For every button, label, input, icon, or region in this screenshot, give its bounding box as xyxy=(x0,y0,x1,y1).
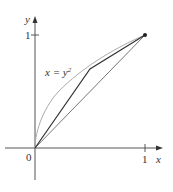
chord-line xyxy=(35,35,145,148)
x-axis-label: x xyxy=(155,153,161,165)
y-axis-label: y xyxy=(24,13,30,25)
origin-label: 0 xyxy=(26,151,32,163)
x-axis-arrow-icon xyxy=(156,146,163,151)
endpoint-dot xyxy=(143,33,147,37)
curve-label: x = y2 xyxy=(44,66,72,78)
y-axis-arrow-icon xyxy=(33,16,38,23)
diagram: y 1 0 1 x x = y2 xyxy=(0,0,173,192)
y-tick-label: 1 xyxy=(25,29,31,41)
x-tick-label: 1 xyxy=(142,153,148,165)
